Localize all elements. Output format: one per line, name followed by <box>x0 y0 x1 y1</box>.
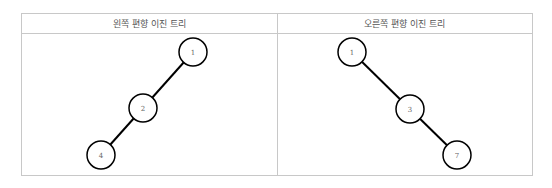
tree-diagrams: 1 2 4 1 3 7 <box>0 0 552 188</box>
tree-node: 1 <box>179 38 207 66</box>
tree-node: 3 <box>396 95 424 123</box>
tree-node: 7 <box>443 141 471 169</box>
tree-node: 4 <box>87 141 115 169</box>
right-skewed-tree: 1 3 7 <box>338 38 471 169</box>
left-skewed-tree: 1 2 4 <box>87 38 207 169</box>
svg-text:1: 1 <box>191 49 195 57</box>
svg-text:7: 7 <box>455 152 459 160</box>
svg-text:4: 4 <box>99 152 104 160</box>
tree-node: 1 <box>338 38 366 66</box>
tree-node: 2 <box>129 94 157 122</box>
svg-text:1: 1 <box>350 49 354 57</box>
svg-text:2: 2 <box>141 105 145 113</box>
svg-text:3: 3 <box>408 106 412 114</box>
